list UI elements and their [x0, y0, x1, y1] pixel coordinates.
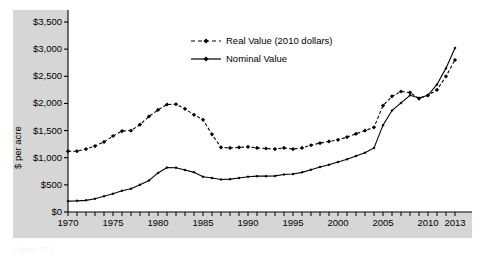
y-tick-label: $0: [14, 207, 62, 217]
x-tick-label: 1970: [48, 218, 88, 228]
x-tick-label: 1980: [138, 218, 178, 228]
legend-marker-2: [190, 53, 224, 65]
x-tick-label: 1990: [228, 218, 268, 228]
x-tick-label: 2005: [363, 218, 403, 228]
y-tick-label: $3,500: [14, 17, 62, 27]
y-tick-label: $2,000: [14, 98, 62, 108]
legend-label-2: Nominal Value: [226, 53, 287, 64]
y-tick-label: $3,000: [14, 44, 62, 54]
legend-marker-1: [190, 35, 224, 47]
y-tick-label: $1,500: [14, 126, 62, 136]
x-tick-label: 2013: [435, 218, 475, 228]
x-tick-label: 1975: [93, 218, 133, 228]
x-tick-label: 1995: [273, 218, 313, 228]
figure-caption: Figure 22.1: [14, 245, 54, 254]
y-tick-label: $2,500: [14, 71, 62, 81]
x-tick-label: 2000: [318, 218, 358, 228]
figure-container: $ per acre $0$500$1,000$1,500$2,000$2,50…: [0, 0, 486, 256]
y-tick-label: $1,000: [14, 153, 62, 163]
legend-label-1: Real Value (2010 dollars): [226, 35, 333, 46]
x-tick-label: 1985: [183, 218, 223, 228]
y-tick-label: $500: [14, 180, 62, 190]
